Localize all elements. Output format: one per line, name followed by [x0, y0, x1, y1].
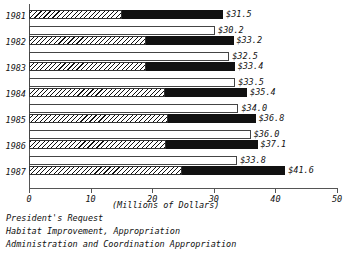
- y-category-label: 1987: [0, 167, 26, 177]
- legend-item-admin: Administration and Coordination Appropri…: [6, 238, 236, 251]
- bar-presidents-request: [29, 78, 235, 87]
- legend-item-habitat: Habitat Improvement, Appropriation: [6, 225, 236, 238]
- bar-habitat-improvement: [29, 10, 122, 19]
- value-label-request: $30.2: [218, 26, 244, 35]
- x-tick: [91, 188, 92, 193]
- value-label-total: $33.2: [237, 36, 263, 45]
- bar-presidents-request: [29, 156, 237, 165]
- value-label-request: $32.5: [232, 52, 258, 61]
- value-label-total: $36.8: [259, 114, 285, 123]
- value-label-request: $36.0: [254, 130, 280, 139]
- legend-item-request: President's Request: [6, 212, 236, 225]
- bar-administration-coordination: [166, 140, 257, 149]
- bar-habitat-improvement: [29, 36, 146, 45]
- value-label-total: $35.4: [250, 88, 276, 97]
- bar-habitat-improvement: [29, 166, 182, 175]
- bar-habitat-improvement: [29, 114, 168, 123]
- bar-administration-coordination: [122, 10, 223, 19]
- value-label-total: $33.4: [238, 62, 264, 71]
- bar-chart: 01020304050 1981$31.51982$30.2$33.21983$…: [0, 0, 354, 254]
- bar-administration-coordination: [146, 62, 235, 71]
- bar-administration-coordination: [146, 36, 233, 45]
- x-tick: [337, 188, 338, 193]
- bar-habitat-improvement: [29, 62, 146, 71]
- y-category-label: 1983: [0, 63, 26, 73]
- x-axis-title: (Millions of Dollars): [112, 200, 219, 210]
- x-tick: [152, 188, 153, 193]
- x-tick: [29, 188, 30, 193]
- y-category-label: 1982: [0, 37, 26, 47]
- value-label-total: $37.1: [261, 140, 287, 149]
- bar-administration-coordination: [165, 88, 248, 97]
- y-category-label: 1986: [0, 141, 26, 151]
- bar-presidents-request: [29, 26, 215, 35]
- y-category-label: 1981: [0, 11, 26, 21]
- y-category-label: 1985: [0, 115, 26, 125]
- value-label-request: $33.5: [238, 78, 264, 87]
- value-label-request: $33.8: [240, 156, 266, 165]
- value-label-total: $41.6: [288, 166, 314, 175]
- bar-administration-coordination: [168, 114, 256, 123]
- x-tick: [214, 188, 215, 193]
- bar-presidents-request: [29, 104, 238, 113]
- x-tick-label: 40: [270, 194, 280, 204]
- bar-administration-coordination: [182, 166, 285, 175]
- bar-habitat-improvement: [29, 88, 165, 97]
- value-label-request: $34.0: [241, 104, 267, 113]
- bar-habitat-improvement: [29, 140, 166, 149]
- bar-group-1987: 1987$33.8$41.6: [0, 162, 354, 188]
- bar-presidents-request: [29, 52, 229, 61]
- value-label-total: $31.5: [226, 10, 252, 19]
- x-tick-label: 10: [85, 194, 95, 204]
- bar-presidents-request: [29, 130, 251, 139]
- x-tick-label: 50: [332, 194, 342, 204]
- x-tick-label: 0: [26, 194, 31, 204]
- x-axis-line: [29, 188, 337, 189]
- x-tick: [275, 188, 276, 193]
- legend: President's Request Habitat Improvement,…: [6, 212, 236, 251]
- y-category-label: 1984: [0, 89, 26, 99]
